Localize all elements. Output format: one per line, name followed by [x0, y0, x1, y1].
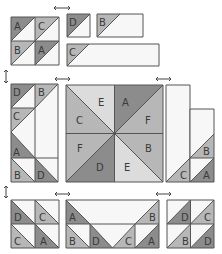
- label: A: [148, 236, 155, 247]
- label: A: [40, 236, 47, 247]
- top-right-units: D B C: [67, 14, 159, 66]
- label: B: [14, 45, 21, 56]
- label: B: [99, 17, 106, 28]
- bottom-right-block: D C B D: [167, 200, 214, 248]
- quilt-diagram: A C B A D B C D B C A: [0, 0, 222, 254]
- label: E: [98, 97, 104, 108]
- arrow-vertical-upper-icon: [4, 70, 8, 83]
- arrow-bottom-left-icon: [55, 192, 70, 196]
- label: C: [13, 111, 20, 122]
- label: C: [38, 21, 45, 32]
- label: B: [145, 143, 152, 154]
- label: B: [149, 212, 156, 223]
- label: D: [37, 170, 45, 181]
- bottom-center-unit: A B B D C A: [66, 200, 159, 248]
- label: D: [96, 162, 104, 173]
- label: A: [14, 21, 21, 32]
- arrow-top-icon: [54, 6, 70, 10]
- label: C: [14, 236, 21, 247]
- label: C: [180, 170, 187, 181]
- center-square: E A C F F B D E: [66, 85, 163, 182]
- label: A: [69, 212, 76, 223]
- label: C: [204, 212, 211, 223]
- label: C: [39, 212, 46, 223]
- label: B: [69, 236, 76, 247]
- top-left-block: A C B A: [11, 17, 59, 65]
- label: A: [122, 97, 129, 108]
- label: C: [76, 115, 83, 126]
- label: D: [14, 212, 22, 223]
- label: A: [13, 147, 20, 158]
- label: D: [13, 87, 21, 98]
- label: F: [145, 115, 151, 126]
- label: A: [38, 45, 45, 56]
- label: D: [181, 212, 189, 223]
- arrow-vertical-lower-icon: [4, 186, 8, 198]
- left-column: D B C A B D: [11, 84, 58, 182]
- label: B: [38, 87, 45, 98]
- bottom-left-block: D C C A: [11, 200, 59, 248]
- label: D: [204, 236, 212, 247]
- arrow-mid-left-icon: [55, 77, 70, 81]
- label: F: [77, 143, 83, 154]
- label: E: [124, 162, 130, 173]
- label: C: [125, 236, 132, 247]
- label: D: [92, 236, 100, 247]
- label: B: [182, 236, 189, 247]
- right-column: B C A: [166, 85, 214, 182]
- label: D: [69, 17, 77, 28]
- label: B: [14, 170, 21, 181]
- arrow-mid-right-icon: [156, 77, 171, 81]
- label: B: [203, 146, 210, 157]
- arrow-bottom-right-icon: [156, 192, 171, 196]
- label: A: [203, 170, 210, 181]
- label: C: [69, 47, 76, 58]
